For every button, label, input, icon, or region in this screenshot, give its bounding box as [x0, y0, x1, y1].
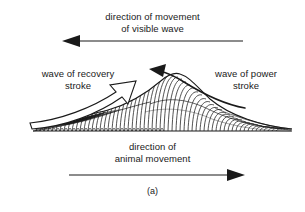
label-direction-of-animal-movement: direction of animal movement	[0, 141, 305, 164]
label-direction-of-visible-wave: direction of movement of visible wave	[0, 11, 305, 34]
label-wave-of-recovery-stroke: wave of recovery stroke	[14, 68, 142, 91]
direction-of-animal-movement-arrow	[69, 169, 245, 181]
label-wave-of-power-stroke: wave of power stroke	[190, 68, 302, 91]
direction-of-visible-wave-arrow	[62, 35, 243, 47]
figure-caption: (a)	[0, 186, 305, 198]
figure-metachronal-wave-diagram: direction of movement of visible wave wa…	[0, 0, 305, 212]
